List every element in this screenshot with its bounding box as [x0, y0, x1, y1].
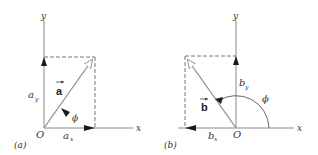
- component-x-main-a: a: [63, 130, 69, 141]
- component-x-sub-b: x: [214, 135, 218, 142]
- x-axis-label-b: x: [297, 123, 302, 133]
- component-y-label-b: b y: [239, 77, 249, 91]
- component-y-sub-b: y: [244, 83, 249, 91]
- by-arrowhead-icon: [233, 56, 239, 65]
- panel-a: y x O a ϕ a y a x (a): [14, 11, 141, 150]
- angle-label-b: ϕ: [262, 93, 269, 104]
- vector-a: [44, 60, 92, 128]
- phi-arrow-icon-a: [61, 108, 70, 117]
- panel-b: y x O b ϕ b y b x (b): [164, 11, 302, 150]
- ay-arrowhead-icon: [41, 57, 47, 66]
- origin-label-a: O: [36, 129, 44, 140]
- vector-components-figure: y x O a ϕ a y a x (a): [0, 0, 318, 155]
- bx-arrowhead-icon: [185, 125, 196, 131]
- ax-arrowhead-icon: [84, 125, 95, 131]
- vector-hat-arrow-icon-a: [61, 81, 64, 84]
- component-y-label-a: a y: [28, 89, 39, 103]
- component-y-sub-a: y: [34, 95, 39, 103]
- vector-label-a: a: [56, 85, 63, 97]
- origin-label-b: O: [233, 129, 241, 140]
- component-x-sub-a: x: [70, 135, 74, 142]
- component-x-label-b: b x: [208, 130, 218, 142]
- vector-label-b: b: [201, 101, 208, 113]
- caption-b: (b): [164, 140, 177, 150]
- y-axis-label-b: y: [232, 11, 239, 21]
- vector-b: [188, 60, 236, 128]
- y-axis-label-a: y: [40, 11, 47, 21]
- component-y-main-a: a: [28, 89, 34, 100]
- angle-label-a: ϕ: [72, 113, 78, 123]
- x-axis-label-a: x: [136, 123, 141, 133]
- caption-a: (a): [14, 140, 27, 150]
- component-x-label-a: a x: [63, 130, 74, 142]
- figure-svg: y x O a ϕ a y a x (a): [0, 0, 318, 155]
